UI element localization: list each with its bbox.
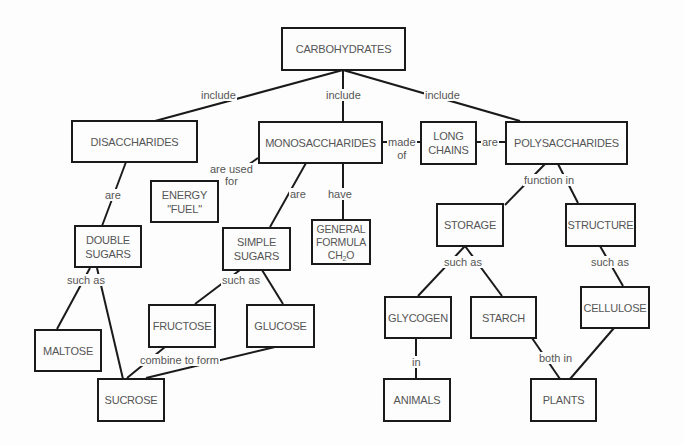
node-disaccharides: DISACCHARIDES: [71, 120, 198, 163]
node-maltose: MALTOSE: [34, 329, 102, 372]
link-label-include-right: include: [424, 89, 461, 101]
link-label-are-mono: are: [289, 188, 307, 200]
general-formula-text: GENERAL FORMULA: [316, 223, 366, 249]
node-energy-fuel: ENERGY "FUEL": [150, 180, 219, 223]
node-starch: STARCH: [470, 296, 537, 339]
formula-ch2o: CH2O: [328, 249, 354, 262]
node-simple-sugars: SIMPLE SUGARS: [222, 227, 291, 271]
node-glucose: GLUCOSE: [246, 304, 315, 348]
node-fructose: FRUCTOSE: [148, 304, 216, 348]
node-cellulose: CELLULOSE: [580, 286, 650, 329]
formula-ch: CH: [328, 249, 343, 261]
link-label-both-in: both in: [538, 352, 573, 364]
link-label-function-in: function in: [523, 174, 575, 186]
node-glycogen: GLYCOGEN: [384, 296, 452, 339]
link-label-have: have: [327, 188, 353, 200]
link-label-are-di: are: [104, 189, 122, 201]
node-polysaccharides: POLYSACCHARIDES: [505, 121, 628, 165]
node-monosaccharides: MONOSACCHARIDES: [258, 121, 383, 164]
node-general-formula: GENERAL FORMULA CH2O: [311, 219, 371, 265]
link-label-include-left: include: [200, 89, 237, 101]
link-label-such-as-storage: such as: [443, 256, 483, 268]
node-long-chains: LONG CHAINS: [420, 121, 477, 165]
link-label-are-poly: are: [481, 136, 499, 148]
node-sucrose: SUCROSE: [97, 378, 165, 422]
link-label-made-of: made of: [387, 136, 417, 162]
node-carbohydrates: CARBOHYDRATES: [281, 27, 406, 71]
link-label-combine-to-form: combine to form: [139, 354, 220, 366]
node-structure: STRUCTURE: [565, 203, 636, 247]
node-animals: ANIMALS: [383, 378, 451, 422]
link-label-such-as-structure: such as: [590, 256, 630, 268]
node-storage: STORAGE: [436, 203, 504, 247]
node-plants: PLANTS: [530, 378, 597, 422]
node-double-sugars: DOUBLE SUGARS: [74, 225, 142, 268]
formula-o: O: [346, 249, 354, 261]
link-label-include-mid: include: [325, 89, 362, 101]
link-label-such-as-double: such as: [66, 274, 106, 286]
link-label-in: in: [411, 356, 422, 368]
link-label-such-as-simple: such as: [221, 274, 261, 286]
